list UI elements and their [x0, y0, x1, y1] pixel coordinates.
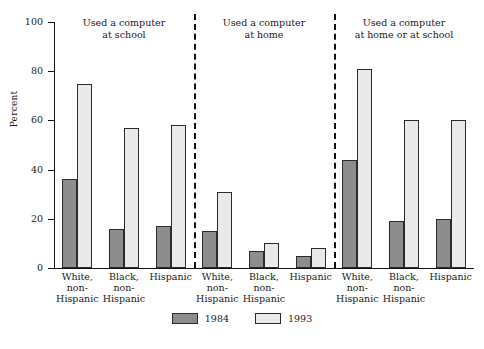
x-category-label-p3-c1: White,non-Hispanic: [334, 271, 381, 304]
bar-p1-c1-1984: [62, 179, 77, 268]
y-axis-label: Percent: [9, 64, 19, 154]
x-category-label-line2: non-: [194, 282, 241, 293]
bar-chart: Percent 020406080100 Used a computerat s…: [0, 0, 484, 349]
x-category-label-line3: Hispanic: [54, 293, 101, 304]
legend: 1984 1993: [0, 313, 484, 324]
bar-p2-c1-1984: [202, 231, 217, 268]
bar-p2-c3-1984: [296, 256, 311, 268]
x-category-label-p3-c3: Hispanic: [427, 271, 474, 282]
y-tick-0: [48, 268, 54, 269]
bar-p2-c3-1993: [311, 248, 326, 268]
x-category-label-line3: Hispanic: [334, 293, 381, 304]
x-category-label-line3: Hispanic: [194, 293, 241, 304]
x-category-label-line1: Hispanic: [147, 271, 194, 282]
legend-label-1984: 1984: [205, 313, 229, 324]
x-category-label-p2-c3: Hispanic: [287, 271, 334, 282]
y-tick-label-80: 80: [3, 66, 43, 76]
x-category-label-line1: Black,: [381, 271, 428, 282]
bars-area: [54, 22, 474, 268]
y-tick-label-40: 40: [3, 165, 43, 175]
bar-p3-c1-1984: [342, 160, 357, 268]
x-axis-line: [54, 268, 474, 269]
x-category-label-line1: Black,: [241, 271, 288, 282]
x-category-label-line1: Hispanic: [427, 271, 474, 282]
x-category-label-line1: White,: [334, 271, 381, 282]
y-tick-label-0: 0: [3, 263, 43, 273]
bar-p3-c2-1984: [389, 221, 404, 268]
bar-p3-c2-1993: [404, 120, 419, 268]
bar-p3-c1-1993: [357, 69, 372, 268]
legend-swatch-1984: [172, 313, 198, 324]
x-category-label-line2: non-: [54, 282, 101, 293]
legend-swatch-1993: [255, 313, 281, 324]
y-tick-label-100: 100: [3, 17, 43, 27]
bar-p3-c3-1993: [451, 120, 466, 268]
x-category-label-line2: non-: [101, 282, 148, 293]
bar-p2-c1-1993: [217, 192, 232, 268]
bar-p1-c2-1984: [109, 229, 124, 268]
x-category-label-p1-c2: Black,non-Hispanic: [101, 271, 148, 304]
x-category-label-line1: Hispanic: [287, 271, 334, 282]
bar-p1-c1-1993: [77, 84, 92, 269]
x-category-label-line2: non-: [381, 282, 428, 293]
x-category-label-p1-c3: Hispanic: [147, 271, 194, 282]
x-category-label-line3: Hispanic: [241, 293, 288, 304]
legend-label-1993: 1993: [288, 313, 312, 324]
x-category-label-line1: White,: [54, 271, 101, 282]
bar-p2-c2-1984: [249, 251, 264, 268]
bar-p1-c3-1993: [171, 125, 186, 268]
bar-p1-c3-1984: [156, 226, 171, 268]
x-category-label-p2-c1: White,non-Hispanic: [194, 271, 241, 304]
bar-p2-c2-1993: [264, 243, 279, 268]
y-tick-label-20: 20: [3, 214, 43, 224]
x-category-label-p1-c1: White,non-Hispanic: [54, 271, 101, 304]
x-category-label-line3: Hispanic: [381, 293, 428, 304]
bar-p1-c2-1993: [124, 128, 139, 268]
bar-p3-c3-1984: [436, 219, 451, 268]
x-category-label-p3-c2: Black,non-Hispanic: [381, 271, 428, 304]
x-category-label-p2-c2: Black,non-Hispanic: [241, 271, 288, 304]
x-category-label-line2: non-: [334, 282, 381, 293]
x-category-label-line1: Black,: [101, 271, 148, 282]
x-category-label-line1: White,: [194, 271, 241, 282]
legend-item-1984: 1984: [172, 313, 229, 324]
legend-item-1993: 1993: [255, 313, 312, 324]
x-category-label-line2: non-: [241, 282, 288, 293]
y-tick-label-60: 60: [3, 115, 43, 125]
x-category-label-line3: Hispanic: [101, 293, 148, 304]
